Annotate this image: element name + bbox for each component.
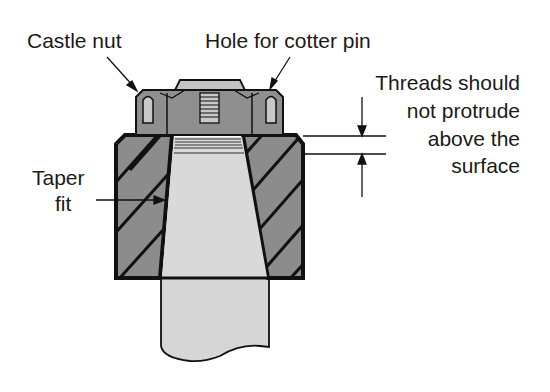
thread-dimension bbox=[303, 97, 386, 197]
castle-nut-leader bbox=[107, 57, 137, 91]
shaft bbox=[161, 278, 269, 361]
diagram-canvas bbox=[0, 0, 550, 392]
label-threads-line4: surface bbox=[451, 155, 520, 177]
label-taper-line1: Taper bbox=[32, 167, 85, 189]
cotter-pin-leader bbox=[270, 57, 290, 89]
label-hole-for-cotter-pin: Hole for cotter pin bbox=[205, 30, 371, 52]
label-threads-line1: Threads should bbox=[375, 72, 520, 94]
label-castle-nut: Castle nut bbox=[27, 30, 122, 52]
castle-nut bbox=[136, 80, 283, 135]
label-threads-line2: not protrude bbox=[407, 100, 520, 122]
label-threads-line3: above the bbox=[428, 128, 520, 150]
label-taper-line2: fit bbox=[55, 193, 71, 215]
